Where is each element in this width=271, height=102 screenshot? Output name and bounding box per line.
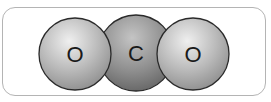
atom-oxygen-right: O bbox=[157, 18, 229, 90]
oxygen-right-label: O bbox=[184, 42, 201, 67]
oxygen-left-label: O bbox=[66, 42, 83, 67]
co2-molecule: C O O bbox=[0, 0, 271, 102]
atom-oxygen-left: O bbox=[39, 18, 111, 90]
carbon-label: C bbox=[128, 41, 144, 66]
